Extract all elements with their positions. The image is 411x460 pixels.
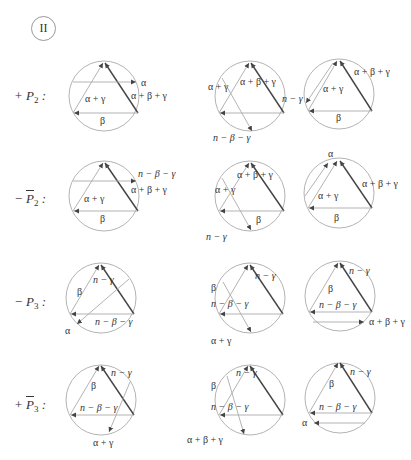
panel-r1-c2	[215, 61, 285, 131]
label-alpha: α	[328, 148, 334, 159]
label-beta: β	[100, 115, 105, 126]
label-beta: β	[328, 283, 333, 294]
label-n-gamma: n − γ	[111, 367, 133, 378]
label-n-beta-gamma: n − β − γ	[319, 401, 357, 412]
label-alpha-gamma: α + γ	[93, 437, 114, 448]
label-alpha-beta-gamma: α + β + γ	[369, 316, 406, 327]
label-alpha-beta-gamma: α + β + γ	[354, 66, 391, 77]
label-alpha: α	[141, 77, 147, 88]
label-alpha-gamma: α + γ	[84, 193, 105, 204]
label-n-beta-gamma: n − β − γ	[211, 298, 249, 309]
arrow-alpha-gamma	[73, 63, 103, 113]
label-beta: β	[329, 378, 334, 389]
label-n-beta-gamma: n − β − γ	[211, 401, 249, 412]
label-n-gamma: n − γ	[282, 93, 304, 104]
label-alpha-beta-gamma: α + β + γ	[187, 434, 224, 445]
label-n-beta-gamma: n − β − γ	[138, 168, 176, 179]
label-beta: β	[336, 112, 341, 123]
circle-diagram-grid: α α + β + γ α + γ β α + γ α + β + γ n − …	[0, 0, 411, 460]
label-alpha: α	[65, 325, 71, 336]
label-n-gamma: n − γ	[350, 366, 372, 377]
label-n-beta-gamma: n − β − γ	[319, 299, 357, 310]
label-n-beta-gamma: n − β − γ	[213, 132, 251, 143]
label-alpha-gamma: α + γ	[85, 93, 106, 104]
label-n-gamma: n − γ	[93, 274, 115, 285]
label-beta: β	[211, 380, 216, 391]
label-alpha-beta-gamma: α + β + γ	[362, 178, 399, 189]
label-beta: β	[334, 212, 339, 223]
label-beta: β	[256, 214, 261, 225]
label-beta: β	[100, 213, 105, 224]
label-n-gamma: n − γ	[206, 231, 228, 242]
label-beta: β	[77, 286, 82, 297]
label-n-gamma: n − γ	[255, 270, 277, 281]
label-alpha-gamma: α + γ	[318, 190, 339, 201]
label-alpha-beta-gamma: α + β + γ	[131, 90, 168, 101]
label-alpha-beta-gamma: α + β + γ	[131, 184, 168, 195]
label-n-gamma: n − γ	[236, 367, 258, 378]
label-n-beta-gamma: n − β − γ	[95, 316, 133, 327]
label-alpha-gamma: α + γ	[215, 184, 236, 195]
label-alpha: α	[302, 417, 308, 428]
label-beta: β	[91, 380, 96, 391]
label-n-gamma: n − γ	[349, 265, 371, 276]
label-alpha-gamma: α + γ	[208, 81, 229, 92]
label-n-beta-gamma: n − β − γ	[80, 402, 118, 413]
label-alpha-gamma: α + γ	[211, 335, 232, 346]
label-alpha-beta-gamma: α + β + γ	[237, 169, 274, 180]
label-beta: β	[211, 282, 216, 293]
arrow-alpha-beta-gamma	[105, 63, 138, 113]
label-alpha-beta-gamma: α + β + γ	[240, 76, 277, 87]
label-alpha-gamma: α + γ	[323, 83, 344, 94]
